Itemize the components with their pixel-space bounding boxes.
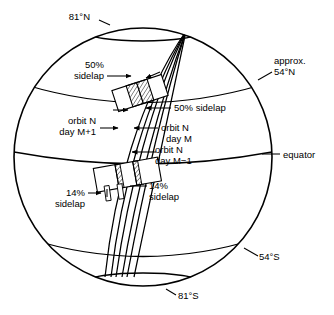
label-equator: equator <box>283 149 315 160</box>
label-sidelap-50-upper-line2: sidelap <box>74 70 104 81</box>
label-orbit-left-line2: day M+1 <box>59 126 96 137</box>
label-approx-54n-line2: 54°N <box>274 66 295 77</box>
orbit-sidelap-figure: 81°N approx. 54°N 50% sidelap 50% sidela… <box>0 0 334 315</box>
label-sidelap-14-right-line1: 14% <box>149 180 169 191</box>
leader-81s <box>166 289 176 295</box>
label-orbit-mid-line2: day M <box>166 133 192 144</box>
label-approx-54n-line1: approx. <box>274 55 306 66</box>
globe-outline <box>14 28 272 286</box>
label-sidelap-50-mid: 50% sidelap <box>174 102 226 113</box>
label-54s: 54°S <box>259 251 280 262</box>
leader-54s <box>244 248 258 256</box>
leader-81n <box>99 20 110 25</box>
label-orbit-right-line1: orbit N <box>155 144 183 155</box>
label-orbit-left-line1: orbit N <box>68 115 96 126</box>
label-sidelap-50-upper-line1: 50% <box>85 59 105 70</box>
label-orbit-mid-line1: orbit N <box>161 122 189 133</box>
label-sidelap-14-left-line1: 14% <box>66 187 86 198</box>
label-sidelap-14-right-line2: sidelap <box>149 191 179 202</box>
leader-54n <box>258 72 272 80</box>
label-81s: 81°S <box>178 290 199 301</box>
label-orbit-right-line2: day M−1 <box>155 155 192 166</box>
label-81n: 81°N <box>69 11 90 22</box>
label-sidelap-14-left-line2: sidelap <box>55 198 85 209</box>
